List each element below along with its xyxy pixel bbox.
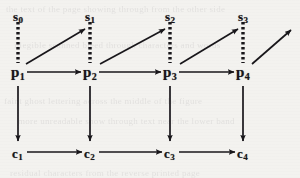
edge-p4-out-diagonal [252, 30, 291, 64]
node-s3-subscript: 3 [244, 15, 249, 25]
node-p1-base: p [11, 64, 19, 80]
node-c1-subscript: 1 [18, 152, 23, 162]
node-c2-subscript: 2 [90, 152, 95, 162]
node-p2-subscript: 2 [92, 71, 97, 82]
node-s3-base: s [238, 9, 243, 24]
node-c3-base: c [164, 146, 170, 161]
node-c1: c1 [12, 145, 23, 162]
node-p2-base: p [83, 64, 91, 80]
node-s2-base: s [165, 9, 170, 24]
node-c1-base: c [12, 146, 18, 161]
node-s0-base: s [13, 9, 18, 24]
node-p1-subscript: 1 [20, 71, 25, 82]
node-p3-base: p [163, 64, 171, 80]
node-s0-subscript: 0 [19, 15, 24, 25]
node-p4-base: p [236, 64, 244, 80]
figure-canvas: the text of the page showing through fro… [0, 0, 300, 178]
node-s2: s2 [165, 8, 175, 25]
edge-p1-s1-diagonal [26, 29, 85, 64]
node-c2: c2 [84, 145, 95, 162]
node-c2-base: c [84, 146, 90, 161]
node-p3-subscript: 3 [172, 71, 177, 82]
node-s1: s1 [85, 8, 95, 25]
node-s1-base: s [85, 9, 90, 24]
node-p1: p1 [11, 64, 25, 82]
node-p2: p2 [83, 64, 97, 82]
node-c4: c4 [237, 145, 248, 162]
node-s2-subscript: 2 [171, 15, 176, 25]
node-c3: c3 [164, 145, 175, 162]
edge-p3-s3-diagonal [180, 29, 238, 64]
node-s3: s3 [238, 8, 248, 25]
node-c3-subscript: 3 [170, 152, 175, 162]
node-s0: s0 [13, 8, 23, 25]
node-p3: p3 [163, 64, 177, 82]
node-c4-base: c [237, 146, 243, 161]
diagram-edges [0, 0, 300, 178]
node-p4: p4 [236, 64, 250, 82]
node-s1-subscript: 1 [91, 15, 96, 25]
edge-p2-s2-diagonal [100, 29, 165, 64]
node-c4-subscript: 4 [243, 152, 248, 162]
node-p4-subscript: 4 [245, 71, 250, 82]
